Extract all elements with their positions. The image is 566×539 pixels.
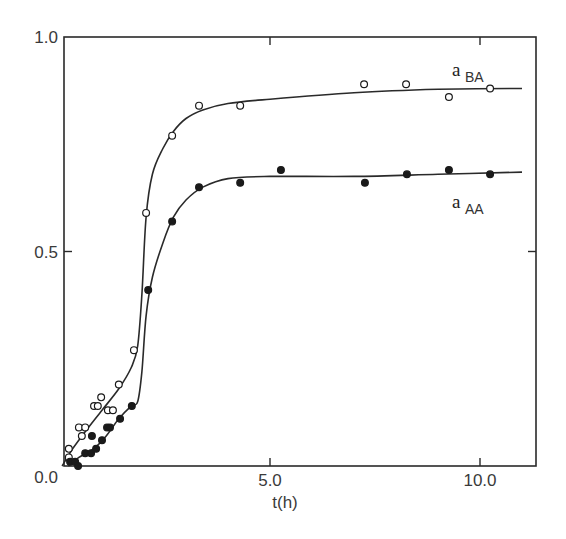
x-axis-label: t(h) <box>272 493 298 512</box>
data-point-a-ba <box>169 132 176 139</box>
axis-ticks <box>64 37 536 466</box>
fit-curve-a-aa <box>68 172 522 466</box>
data-point-a-aa <box>237 179 244 186</box>
data-point-a-aa <box>487 171 494 178</box>
data-point-a-ba <box>196 102 203 109</box>
data-point-a-ba <box>98 394 105 401</box>
series-label-subscript: BA <box>465 69 484 85</box>
data-point-a-aa <box>362 179 369 186</box>
data-point-a-ba <box>143 209 150 216</box>
data-point-a-ba <box>403 81 410 88</box>
data-point-a-aa <box>99 437 106 444</box>
data-point-a-aa <box>128 403 135 410</box>
data-point-a-ba <box>361 81 368 88</box>
data-point-a-aa <box>75 463 82 470</box>
series-label-a-aa: aAA <box>452 191 484 217</box>
data-point-a-aa <box>278 167 285 174</box>
y-tick-label: 1.0 <box>34 28 58 47</box>
series-label-symbol: a <box>452 191 461 212</box>
x-tick-label: 10.0 <box>463 471 496 490</box>
plot-frame <box>64 37 536 466</box>
series-label-a-ba: aBA <box>452 59 484 85</box>
series-label-subscript: AA <box>465 201 484 217</box>
data-point-a-aa <box>107 424 114 431</box>
data-markers <box>65 81 493 470</box>
data-point-a-ba <box>131 347 138 354</box>
plot-border <box>64 37 536 466</box>
axis-tick-labels: 5.010.00.00.51.0 <box>34 28 496 490</box>
data-point-a-ba <box>78 433 85 440</box>
data-point-a-aa <box>145 287 152 294</box>
data-point-a-aa <box>404 171 411 178</box>
data-point-a-aa <box>117 415 124 422</box>
data-point-a-ba <box>65 445 72 452</box>
data-point-a-ba <box>82 424 89 431</box>
y-tick-label: 0.5 <box>34 243 58 262</box>
series-labels: aBAaAA <box>452 59 484 217</box>
chart: 5.010.00.00.51.0 aBAaAA t(h) <box>0 0 566 539</box>
data-point-a-aa <box>196 184 203 191</box>
data-point-a-ba <box>110 407 117 414</box>
y-tick-label: 0.0 <box>34 468 58 487</box>
data-point-a-aa <box>89 433 96 440</box>
data-point-a-ba <box>237 102 244 109</box>
x-tick-label: 5.0 <box>258 471 282 490</box>
data-point-a-ba <box>115 381 122 388</box>
data-point-a-ba <box>446 94 453 101</box>
data-point-a-ba <box>94 403 101 410</box>
series-label-symbol: a <box>452 59 461 80</box>
data-point-a-aa <box>93 445 100 452</box>
data-point-a-aa <box>446 167 453 174</box>
data-point-a-aa <box>169 218 176 225</box>
data-point-a-ba <box>487 85 494 92</box>
